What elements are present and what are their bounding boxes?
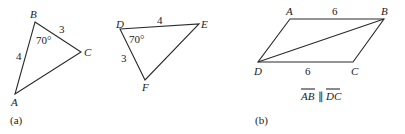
triangle-abc: B C A 4 3 70° [10, 8, 92, 108]
geometry-figure: B C A 4 3 70° D E F 4 3 70° (a) A B C D … [0, 0, 405, 134]
segment-dc: DC [325, 90, 342, 102]
angle-d-label: 70° [129, 33, 144, 45]
side-length-dc: 6 [305, 65, 311, 77]
parallel-statement: AB ∥ DC [300, 89, 342, 103]
vertex-label-a: A [285, 5, 293, 17]
vertex-label-c: C [84, 46, 92, 58]
diagonal-db [258, 19, 384, 62]
side-length-de: 4 [157, 14, 163, 26]
triangle-abc-outline [15, 22, 81, 94]
vertex-label-e: E [200, 18, 208, 30]
vertex-label-d: D [115, 18, 124, 30]
side-length-ab: 4 [16, 50, 22, 62]
angle-b-label: 70° [36, 34, 51, 46]
triangle-def: D E F 4 3 70° [115, 14, 208, 93]
vertex-label-b: B [381, 5, 388, 17]
vertex-label-c: C [351, 65, 359, 77]
segment-ab: AB [300, 90, 315, 102]
side-length-bc: 3 [59, 23, 65, 35]
vertex-label-a: A [10, 96, 18, 108]
side-length-ab: 6 [332, 5, 338, 17]
vertex-label-f: F [141, 81, 149, 93]
vertex-label-d: D [253, 65, 262, 77]
caption-a: (a) [10, 114, 23, 127]
parallel-symbol: ∥ [318, 90, 324, 103]
caption-b: (b) [255, 114, 268, 127]
parallelogram-abcd: A B C D 6 6 [253, 5, 388, 77]
side-length-df: 3 [121, 52, 127, 64]
vertex-label-b: B [30, 8, 37, 20]
